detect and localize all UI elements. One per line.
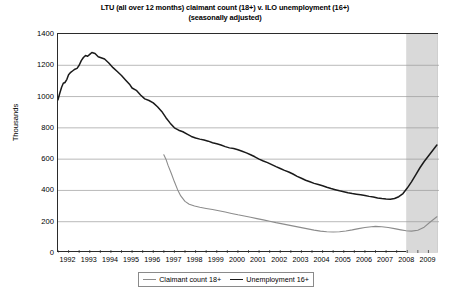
chart-subtitle: (seasonally adjusted): [0, 13, 450, 23]
x-axis-tick-label: 2004: [314, 255, 330, 264]
y-axis-tick-labels: 1400120010008006004002000: [0, 0, 54, 296]
x-axis-tick-label: 2000: [229, 255, 245, 264]
x-axis-tick-label: 1994: [102, 255, 118, 264]
x-axis-tick-labels: 1992199319941995199619971998199920002001…: [0, 255, 450, 269]
x-axis-tick-label: 1999: [208, 255, 224, 264]
x-axis-tick-label: 2007: [377, 255, 393, 264]
x-axis-tick-label: 2001: [250, 255, 266, 264]
x-axis-tick-label: 2003: [292, 255, 308, 264]
legend-item: Unemployment 16+: [230, 275, 309, 284]
chart-title: LTU (all over 12 months) claimant count …: [0, 3, 450, 13]
y-axis-tick-label: 600: [41, 154, 54, 163]
y-axis-tick-label: 1000: [37, 91, 54, 100]
x-axis-tick-label: 1997: [165, 255, 181, 264]
legend-label: Unemployment 16+: [246, 275, 309, 284]
chart-canvas: [58, 34, 439, 253]
y-axis-tick-label: 1200: [37, 60, 54, 69]
x-axis-tick-label: 1995: [123, 255, 139, 264]
plot-area: [57, 33, 438, 252]
y-axis-tick-label: 400: [41, 185, 54, 194]
x-axis-tick-label: 1996: [144, 255, 160, 264]
legend-swatch-claim: [143, 279, 156, 280]
x-axis-tick-label: 2002: [271, 255, 287, 264]
y-axis-tick-label: 200: [41, 216, 54, 225]
legend-swatch-unemp: [230, 279, 243, 280]
x-axis-tick-label: 2005: [335, 255, 351, 264]
x-axis-tick-label: 1998: [187, 255, 203, 264]
y-axis-tick-label: 800: [41, 122, 54, 131]
chart-figure: LTU (all over 12 months) claimant count …: [0, 0, 450, 296]
x-axis-tick-label: 1992: [60, 255, 76, 264]
series-line-unemployment-16: [58, 52, 437, 199]
series-line-claimant-count-18: [164, 155, 437, 232]
chart-legend: Claimant count 18+Unemployment 16+: [138, 272, 314, 287]
y-axis-tick-label: 1400: [37, 29, 54, 38]
x-axis-tick-label: 2008: [398, 255, 414, 264]
chart-title-block: LTU (all over 12 months) claimant count …: [0, 3, 450, 23]
x-axis-tick-label: 2006: [356, 255, 372, 264]
legend-label: Claimant count 18+: [159, 275, 221, 284]
x-axis-tick-label: 1993: [81, 255, 97, 264]
legend-item: Claimant count 18+: [143, 275, 221, 284]
x-axis-tick-label: 2009: [419, 255, 435, 264]
